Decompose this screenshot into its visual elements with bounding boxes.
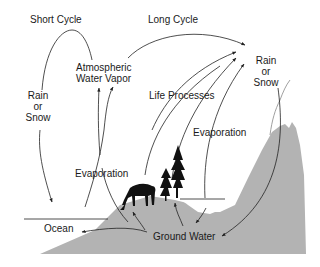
rain-or-snow-left-label-3: Snow: [22, 112, 54, 123]
long-cycle-label: Long Cycle: [148, 14, 198, 25]
rain-or-snow-right-label-3: Snow: [250, 77, 282, 88]
atmospheric-water-vapor-label-line2: Water Vapor: [76, 73, 131, 84]
short-cycle-label: Short Cycle: [30, 14, 82, 25]
ground-water-label: Ground Water: [153, 231, 215, 242]
rain-left-arrow: [40, 130, 53, 202]
rain-or-snow-left-label-2: or: [26, 101, 50, 112]
rain-or-snow-right-label-1: Rain: [254, 55, 278, 66]
long-cycle-arrow: [128, 34, 245, 58]
evaporation-right-label: Evaporation: [193, 127, 246, 138]
evaporation-left-label: Evaporation: [75, 168, 128, 179]
life-processes-label: Life Processes: [149, 90, 215, 101]
evaporation-up-arrow-1: [98, 88, 100, 155]
rain-or-snow-left-label-1: Rain: [26, 90, 50, 101]
evaporation-up-arrow-2: [85, 87, 113, 207]
ocean-label: Ocean: [44, 223, 73, 234]
atmospheric-water-vapor-label-line1: Atmospheric: [76, 62, 132, 73]
rain-or-snow-right-label-2: or: [254, 66, 278, 77]
